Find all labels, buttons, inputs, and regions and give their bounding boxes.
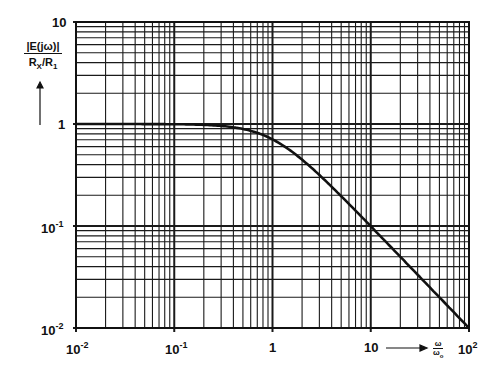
x-axis-label: ω ωo (433, 340, 443, 359)
den-r1-sub: 1 (53, 62, 57, 71)
x-den-omega: ω (433, 348, 440, 357)
x-tick-100-exp: 2 (472, 340, 477, 350)
x-tick-0.1: 10-1 (165, 341, 187, 356)
den-r1: /R (42, 56, 53, 68)
x-axis-label-denominator: ωo (433, 348, 443, 357)
grid-lines (73, 22, 469, 332)
x-tick-0.01: 10-2 (66, 341, 88, 356)
y-tick-0.1-exp: -1 (55, 219, 63, 229)
x-tick-0.01-exp: -2 (80, 340, 88, 350)
y-tick-0.1-base: 10 (41, 221, 55, 236)
x-tick-10: 10 (364, 341, 378, 354)
y-tick-1: 1 (58, 118, 65, 131)
y-tick-10: 10 (52, 16, 66, 29)
x-tick-100: 102 (458, 341, 477, 356)
y-tick-0.01-exp: -2 (55, 321, 63, 331)
den-rx: R (29, 56, 37, 68)
x-tick-100-base: 10 (458, 342, 472, 357)
y-tick-0.01: 10-2 (41, 322, 63, 337)
x-tick-0.01-base: 10 (66, 342, 80, 357)
chart-plot-area (0, 0, 493, 372)
x-tick-1: 1 (269, 341, 276, 354)
y-tick-0.01-base: 10 (41, 323, 55, 338)
x-tick-0.1-exp: -1 (179, 340, 187, 350)
y-axis-label-denominator: RX/R1 (29, 54, 58, 72)
x-tick-0.1-base: 10 (165, 342, 179, 357)
axis-arrows (37, 82, 427, 351)
x-den-sub: o (440, 353, 444, 359)
y-axis-label: |E(jω)| RX/R1 (18, 40, 68, 72)
y-tick-0.1: 10-1 (41, 220, 63, 235)
y-axis-label-numerator: |E(jω)| (24, 40, 61, 54)
